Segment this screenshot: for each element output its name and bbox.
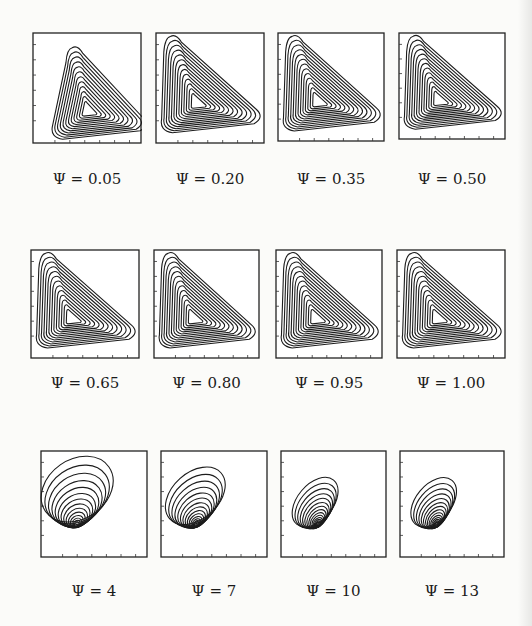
panel-caption: Ψ = 13	[392, 582, 512, 600]
contour-plot	[32, 32, 142, 144]
contour-plot-panel	[398, 32, 506, 140]
contour-plot-panel	[399, 450, 505, 558]
contour-plot	[399, 450, 505, 558]
contour-plot	[153, 249, 260, 359]
page-edge-shadow	[518, 0, 532, 626]
panel-caption: Ψ = 0.05	[27, 170, 147, 188]
panel-caption: Ψ = 0.20	[150, 170, 270, 188]
contour-plot	[398, 32, 506, 140]
contour-plot-panel	[396, 249, 506, 359]
panel-caption: Ψ = 10	[274, 582, 394, 600]
contour-plot	[396, 249, 506, 359]
contour-plot	[30, 249, 140, 359]
panel-caption: Ψ = 0.35	[271, 170, 391, 188]
panel-caption: Ψ = 0.80	[147, 374, 267, 392]
contour-plot-panel	[275, 249, 383, 359]
contour-plot-panel	[153, 249, 260, 359]
contour-plot	[160, 450, 268, 558]
contour-plot	[155, 32, 265, 144]
contour-plot-panel	[160, 450, 268, 558]
panel-caption: Ψ = 4	[34, 582, 154, 600]
contour-plot-panel	[155, 32, 265, 144]
contour-plot	[277, 32, 385, 142]
contour-plot-panel	[30, 249, 140, 359]
panel-caption: Ψ = 0.65	[25, 374, 145, 392]
contour-plot	[280, 450, 387, 558]
contour-plot-panel	[277, 32, 385, 142]
contour-plot	[275, 249, 383, 359]
panel-caption: Ψ = 7	[154, 582, 274, 600]
panel-caption: Ψ = 0.95	[269, 374, 389, 392]
contour-plot-panel	[40, 450, 148, 558]
contour-plot-panel	[280, 450, 387, 558]
panel-caption: Ψ = 1.00	[391, 374, 511, 392]
panel-caption: Ψ = 0.50	[392, 170, 512, 188]
contour-plot	[40, 450, 148, 558]
contour-plot-panel	[32, 32, 142, 144]
